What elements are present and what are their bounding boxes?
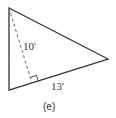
triangle-figure: 10' 13' (e) [0, 0, 116, 118]
base-label: 13' [51, 80, 64, 92]
figure-caption: (e) [43, 101, 55, 112]
right-angle-marker [30, 76, 38, 82]
altitude-label: 10' [23, 40, 36, 52]
